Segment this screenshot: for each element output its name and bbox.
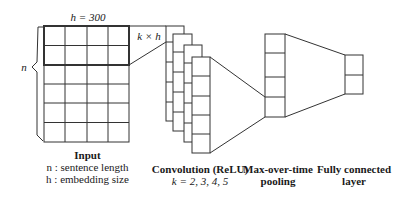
height-label: n <box>18 61 30 73</box>
fc-caption: Fully connected layer <box>314 163 394 187</box>
input-caption-title: Input <box>30 149 145 161</box>
fc-caption-line-2: layer <box>314 175 394 187</box>
convolution-caption-sub: k = 2, 3, 4, 5 <box>140 175 260 187</box>
feature-map-4 <box>192 57 210 153</box>
input-caption-line-2: h : embedding size <box>30 173 145 185</box>
filter-size-label: k × h <box>133 30 165 42</box>
input-caption: Input n : sentence length h : embedding … <box>30 149 145 185</box>
fully-connected-layer <box>345 55 363 94</box>
pooling-layer <box>265 34 285 117</box>
pooling-caption-line-1: Max-over-time <box>243 163 313 175</box>
fc-caption-line-1: Fully connected <box>314 163 394 175</box>
pooling-caption-line-2: pooling <box>243 175 313 187</box>
input-matrix <box>44 26 129 142</box>
convolution-caption: Convolution (ReLU) k = 2, 3, 4, 5 <box>140 163 260 187</box>
convolution-caption-title: Convolution (ReLU) <box>140 163 260 175</box>
pooling-caption: Max-over-time pooling <box>243 163 313 187</box>
n-brace <box>32 27 43 141</box>
width-label: h = 300 <box>66 11 110 23</box>
input-caption-line-1: n : sentence length <box>30 161 145 173</box>
